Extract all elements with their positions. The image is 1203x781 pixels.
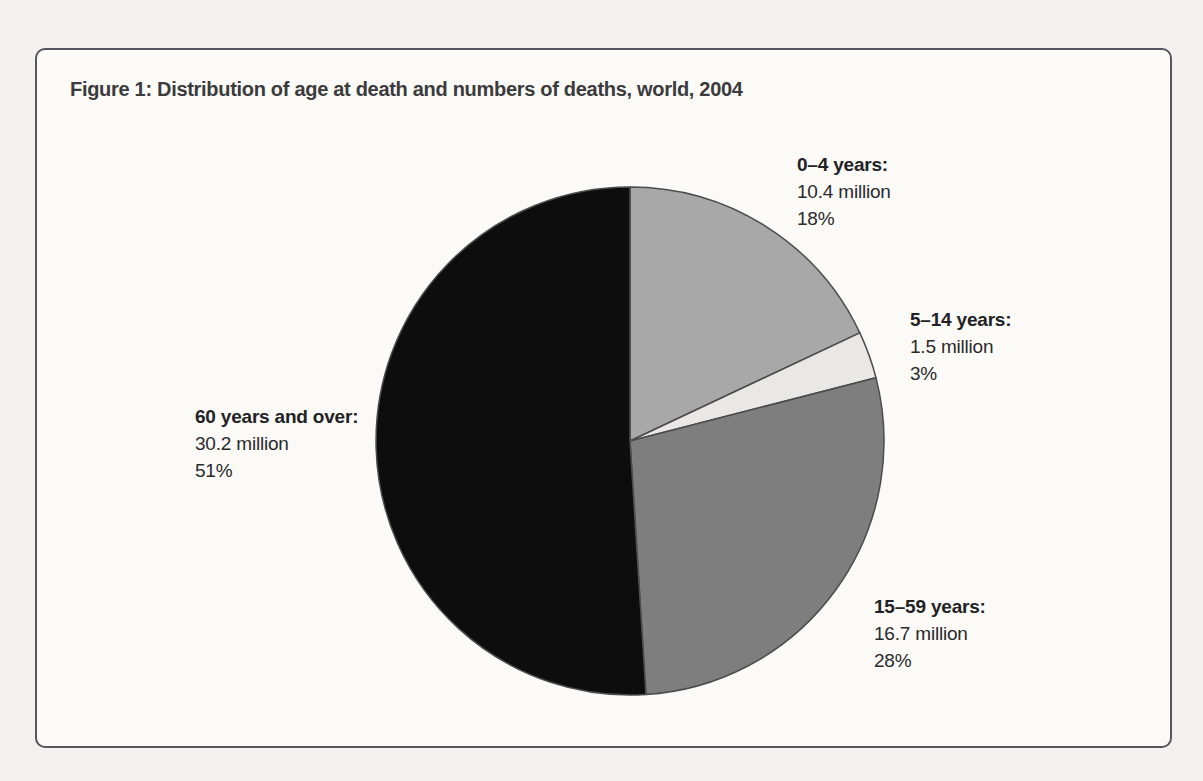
slice-label: 5–14 years: [910,306,1011,333]
slice-percent: 28% [874,647,986,674]
slice-value: 16.7 million [874,620,986,647]
slice-value: 1.5 million [910,333,1011,360]
slice-callout-15-59-years: 15–59 years: 16.7 million 28% [874,593,986,674]
scanned-page: Figure 1: Distribution of age at death a… [0,0,1203,781]
pie-chart [374,185,886,697]
slice-value: 10.4 million [797,178,891,205]
slice-percent: 18% [797,205,891,232]
pie-slice-3 [376,187,646,695]
slice-value: 30.2 million [195,430,358,457]
slice-label: 60 years and over: [195,403,358,430]
slice-callout-5-14-years: 5–14 years: 1.5 million 3% [910,306,1011,387]
slice-callout-0-4-years: 0–4 years: 10.4 million 18% [797,151,891,232]
slice-callout-60-years-and-over: 60 years and over: 30.2 million 51% [195,403,358,484]
slice-percent: 3% [910,360,1011,387]
figure-box: Figure 1: Distribution of age at death a… [35,48,1172,748]
slice-label: 0–4 years: [797,151,891,178]
slice-label: 15–59 years: [874,593,986,620]
slice-percent: 51% [195,457,358,484]
figure-title: Figure 1: Distribution of age at death a… [70,78,743,101]
